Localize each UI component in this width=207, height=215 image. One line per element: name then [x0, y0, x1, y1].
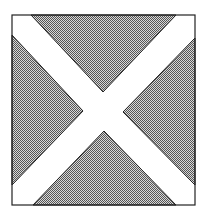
saltire-diagram — [0, 0, 207, 215]
